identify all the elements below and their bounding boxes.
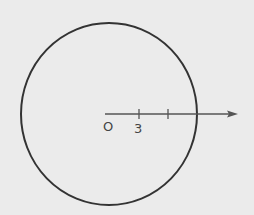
- tick-label-3: 3: [134, 121, 142, 136]
- circle-ray-figure: O 3: [0, 0, 254, 215]
- diagram-canvas: O 3: [0, 0, 254, 215]
- origin-label: O: [103, 119, 113, 134]
